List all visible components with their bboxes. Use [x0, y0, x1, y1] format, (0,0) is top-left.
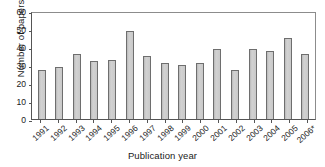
bar-slot: [174, 13, 192, 119]
bar-slot: [86, 13, 104, 119]
bar[interactable]: [73, 54, 81, 119]
bar[interactable]: [55, 67, 63, 119]
bar-slot: [279, 13, 297, 119]
plot-area: [31, 12, 316, 120]
y-axis-tick-mark: [29, 103, 32, 104]
y-axis-tick-labels: 0102030405060: [8, 12, 26, 120]
bar-slot: [261, 13, 279, 119]
bar-slot: [51, 13, 69, 119]
bar[interactable]: [231, 70, 239, 119]
bar-slot: [209, 13, 227, 119]
y-axis-tick-label: 20: [16, 79, 26, 89]
bar-slot: [156, 13, 174, 119]
bar[interactable]: [249, 49, 257, 119]
bar[interactable]: [161, 63, 169, 119]
bar[interactable]: [301, 54, 309, 119]
bar-slot: [33, 13, 51, 119]
bar[interactable]: [143, 56, 151, 119]
bar-slot: [138, 13, 156, 119]
bar-series: [32, 13, 315, 119]
y-axis-tick-label: 40: [16, 43, 26, 53]
bar-slot: [296, 13, 314, 119]
bar-slot: [68, 13, 86, 119]
x-axis-tick-labels: 1991199219931994199519961997199819992000…: [31, 123, 316, 149]
bar[interactable]: [178, 65, 186, 119]
bar-slot: [226, 13, 244, 119]
bar[interactable]: [266, 51, 274, 119]
bar-slot: [103, 13, 121, 119]
y-axis-tick-label: 30: [16, 61, 26, 71]
y-axis-tick-mark: [29, 85, 32, 86]
y-axis-tick-mark: [29, 67, 32, 68]
bar-slot: [191, 13, 209, 119]
bar-slot: [121, 13, 139, 119]
bar[interactable]: [196, 63, 204, 119]
bar[interactable]: [284, 38, 292, 119]
y-axis-tick-label: 60: [16, 7, 26, 17]
bar[interactable]: [108, 60, 116, 119]
bar[interactable]: [90, 61, 98, 119]
y-axis-tick-label: 50: [16, 25, 26, 35]
y-axis-tick-mark: [29, 13, 32, 14]
y-axis-tick-mark: [29, 49, 32, 50]
bar[interactable]: [126, 31, 134, 119]
y-axis-tick-label: 10: [16, 97, 26, 107]
y-axis-tick-label: 0: [21, 115, 26, 125]
bar-chart-figure: Number of papers 0102030405060 199119921…: [0, 0, 325, 167]
bar[interactable]: [213, 49, 221, 119]
x-axis-title: Publication year: [0, 150, 325, 161]
bar[interactable]: [38, 70, 46, 119]
bar-slot: [244, 13, 262, 119]
y-axis-tick-mark: [29, 31, 32, 32]
